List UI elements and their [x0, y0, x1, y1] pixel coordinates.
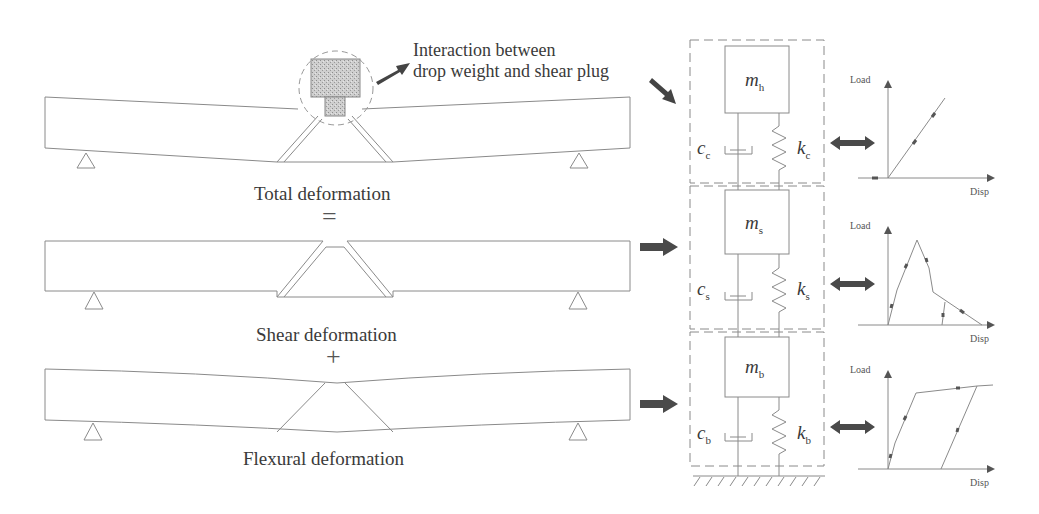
damper-s-label: cs — [697, 278, 710, 302]
graph1-xlabel: Disp — [970, 186, 989, 197]
graph2-ylabel: Load — [850, 220, 871, 231]
double-arrow-icon — [830, 420, 875, 434]
double-arrow-icon — [830, 277, 875, 291]
mass-h-label: mh — [745, 69, 764, 93]
annotation-line-1: Interaction between — [413, 40, 555, 60]
graph-contact — [858, 82, 993, 178]
graph-flexural — [858, 372, 993, 469]
spring-c-label: kc — [797, 137, 810, 161]
damper-c-label: cc — [697, 137, 710, 161]
beam-flexural — [45, 369, 630, 440]
arrow-to-flexural-model — [640, 395, 678, 413]
equals-sign: = — [322, 202, 337, 232]
graph-shear — [858, 228, 993, 325]
double-arrow-icon — [830, 136, 875, 150]
plus-sign: + — [326, 342, 341, 372]
graph1-ylabel: Load — [850, 74, 871, 85]
spring-b-label: kb — [797, 422, 811, 446]
graph2-xlabel: Disp — [970, 333, 989, 344]
spring-mass-model — [690, 40, 825, 486]
pointer-arrow-icon — [649, 78, 676, 104]
spring-s-label: ks — [797, 278, 810, 302]
drop-weight — [311, 59, 360, 116]
annotation-line-2: drop weight and shear plug — [413, 61, 609, 81]
annotation-arrow-icon — [376, 63, 410, 85]
mass-s-label: ms — [745, 212, 763, 236]
caption-flexural-deformation: Flexural deformation — [243, 448, 404, 470]
arrow-to-shear-model — [640, 238, 678, 256]
damper-b-label: cb — [697, 422, 711, 446]
graph3-ylabel: Load — [850, 364, 871, 375]
beam-shear — [45, 241, 630, 309]
mass-b-label: mb — [745, 356, 764, 380]
graph3-xlabel: Disp — [970, 477, 989, 488]
